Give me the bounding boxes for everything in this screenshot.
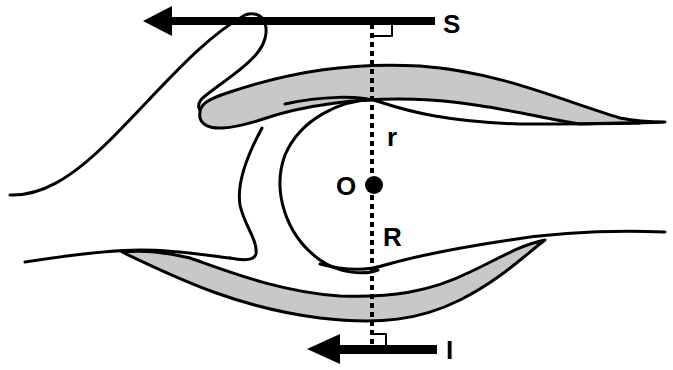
lower-radius-label: R bbox=[383, 222, 402, 252]
diagram-canvas: S I O r R bbox=[0, 0, 673, 370]
inferior-arrow-head bbox=[307, 334, 340, 364]
center-point bbox=[365, 176, 383, 194]
superior-arrow-shaft bbox=[160, 17, 435, 25]
inferior-arrow-shaft bbox=[325, 345, 437, 354]
right-angle-marker-bottom bbox=[372, 334, 386, 346]
center-label: O bbox=[336, 171, 356, 201]
superior-arrow-head bbox=[143, 6, 172, 36]
upper-radius-label: r bbox=[387, 122, 397, 152]
medial-fold bbox=[230, 128, 262, 260]
eyelid-diagram: S I O r R bbox=[0, 0, 673, 370]
inferior-arrow bbox=[307, 334, 437, 364]
globe-circle bbox=[280, 100, 380, 273]
superior-label: S bbox=[443, 9, 460, 39]
inferior-label: I bbox=[446, 335, 453, 365]
upper-eyelid-margin bbox=[200, 65, 665, 128]
